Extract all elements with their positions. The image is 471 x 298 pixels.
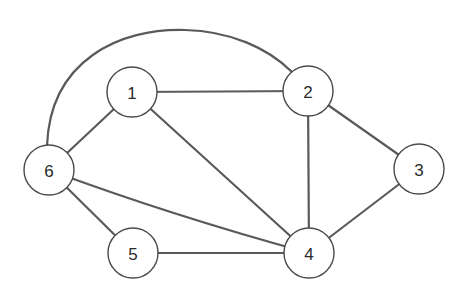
nodes: 1 2 3 4 5 6 [24,66,444,278]
node-label-4: 4 [304,245,313,264]
node-2: 2 [283,66,333,116]
node-6: 6 [24,145,74,195]
node-5: 5 [108,228,158,278]
edge-1-4 [132,92,309,253]
node-label-1: 1 [127,84,136,103]
node-3: 3 [394,144,444,194]
edge-1-2 [132,91,308,92]
edge-6-4 [49,170,309,253]
edges [47,30,419,253]
node-4: 4 [284,228,334,278]
edge-2-6-curved [47,30,292,146]
graph-diagram: 1 2 3 4 5 6 [0,0,471,298]
node-label-6: 6 [44,162,53,181]
node-label-3: 3 [414,161,423,180]
node-label-2: 2 [303,83,312,102]
node-label-5: 5 [128,245,137,264]
node-1: 1 [107,67,157,117]
